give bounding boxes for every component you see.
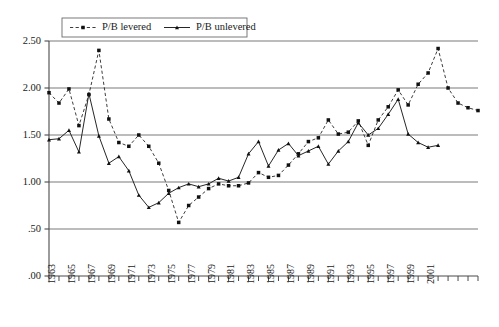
x-tick-label: 1965 <box>66 264 77 284</box>
data-point-marker-levered <box>456 101 460 105</box>
legend-label-levered: P/B levered <box>102 21 152 32</box>
data-point-marker-levered <box>217 182 221 186</box>
x-tick-label: 1987 <box>285 264 296 284</box>
data-point-marker-levered <box>277 174 281 178</box>
x-tick-label: 1983 <box>245 264 256 284</box>
line-chart: .00.501.001.502.002.50 19631965196719691… <box>0 0 499 327</box>
data-point-marker-unlevered <box>257 140 261 144</box>
data-point-marker-levered <box>436 47 440 51</box>
y-tick-label: 1.50 <box>23 129 41 140</box>
y-tick-label: 1.00 <box>23 176 41 187</box>
data-point-marker-levered <box>237 184 241 188</box>
data-point-marker-levered <box>347 130 351 134</box>
data-point-marker-levered <box>127 145 131 149</box>
data-point-marker-levered <box>247 181 251 185</box>
data-point-marker-levered <box>157 161 161 165</box>
data-point-marker-levered <box>67 87 71 91</box>
data-point-marker-levered <box>267 176 271 180</box>
data-point-marker-unlevered <box>237 175 241 179</box>
x-tick-label: 1967 <box>86 264 97 284</box>
data-point-marker-unlevered <box>217 176 221 180</box>
x-tick-label: 1999 <box>405 264 416 284</box>
x-tick-label: 1993 <box>345 264 356 284</box>
x-tick-label: 2001 <box>425 264 436 284</box>
data-point-marker-levered <box>426 71 430 75</box>
y-tick-label: .50 <box>28 223 41 234</box>
x-axis: 1963196519671969197119731975197719791981… <box>46 264 478 284</box>
data-point-marker-levered <box>307 140 311 144</box>
data-point-marker-levered <box>446 86 450 90</box>
data-point-marker-unlevered <box>346 140 350 144</box>
data-point-marker-unlevered <box>77 150 81 154</box>
data-point-marker-levered <box>327 118 331 122</box>
data-point-marker-unlevered <box>67 128 71 132</box>
data-point-marker-levered <box>147 145 151 149</box>
data-point-marker-levered <box>396 88 400 92</box>
x-tick-label: 1977 <box>186 264 197 284</box>
x-tick-label: 1985 <box>265 264 276 284</box>
data-point-marker-levered <box>416 82 420 86</box>
chart-legend: P/B leveredP/B unlevered <box>62 18 257 37</box>
data-point-marker-unlevered <box>286 141 290 145</box>
data-point-marker-unlevered <box>396 97 400 101</box>
data-point-marker-levered <box>287 163 291 167</box>
data-point-marker-levered <box>337 132 341 136</box>
data-point-marker-levered <box>137 133 141 137</box>
y-tick-label: .00 <box>28 270 41 281</box>
data-point-marker-unlevered <box>137 193 141 197</box>
x-tick-label: 1997 <box>385 264 396 284</box>
x-tick-label: 1969 <box>106 264 117 284</box>
x-tick-label: 1981 <box>225 264 236 284</box>
x-tick-label: 1979 <box>206 264 217 284</box>
data-point-marker-levered <box>47 91 51 95</box>
y-tick-label: 2.00 <box>23 82 41 93</box>
x-tick-label: 1971 <box>126 264 137 284</box>
data-point-marker-levered <box>317 136 321 140</box>
legend-label-unlevered: P/B unlevered <box>196 21 257 32</box>
x-tick-label: 1989 <box>305 264 316 284</box>
data-point-marker-levered <box>466 106 470 110</box>
data-point-marker-levered <box>367 144 371 148</box>
x-tick-label: 1973 <box>146 264 157 284</box>
data-point-marker-unlevered <box>406 132 410 136</box>
y-tick-label: 2.50 <box>23 35 41 46</box>
data-point-marker-legend-levered <box>81 26 85 30</box>
data-point-marker-levered <box>117 141 121 145</box>
data-point-marker-unlevered <box>117 155 121 159</box>
x-tick-label: 1991 <box>325 264 336 284</box>
chart-container: .00.501.001.502.002.50 19631965196719691… <box>0 0 499 327</box>
x-tick-label: 1995 <box>365 264 376 284</box>
data-point-marker-levered <box>386 105 390 109</box>
data-point-marker-levered <box>376 118 380 122</box>
y-axis: .00.501.001.502.002.50 <box>23 35 49 281</box>
gridlines <box>49 41 478 229</box>
data-point-marker-levered <box>406 103 410 107</box>
x-tick-label: 1975 <box>166 264 177 284</box>
data-point-marker-levered <box>227 184 231 188</box>
data-point-marker-levered <box>207 187 211 191</box>
data-point-marker-levered <box>177 221 181 225</box>
data-point-marker-levered <box>476 109 480 113</box>
data-point-marker-levered <box>257 171 261 175</box>
data-point-marker-levered <box>57 101 61 105</box>
data-point-marker-unlevered <box>316 144 320 148</box>
data-point-marker-levered <box>77 124 81 128</box>
data-point-marker-levered <box>107 117 111 121</box>
x-tick-label: 1963 <box>46 264 57 284</box>
data-point-marker-levered <box>97 49 101 53</box>
data-point-marker-levered <box>197 195 201 199</box>
data-point-marker-levered <box>187 204 191 208</box>
